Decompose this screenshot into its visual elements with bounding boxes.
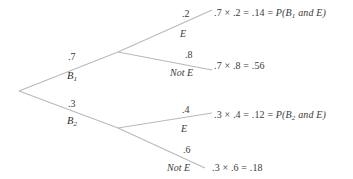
node-label-b2: B2 bbox=[67, 116, 77, 127]
calculation-b2-not-e: .3 × .6 = .18 bbox=[212, 163, 263, 173]
calculation-b2-e-subscript: 2 bbox=[292, 114, 296, 122]
calculation-b1-e: .7 × .2 = .14 = P(B1 and E) bbox=[214, 8, 326, 18]
node-label-b1-subscript: 1 bbox=[73, 75, 77, 83]
branch-line-b2-e bbox=[118, 113, 212, 128]
node-label-b2-subscript: 2 bbox=[73, 120, 77, 128]
probability-label-b1-e: .2 bbox=[182, 9, 190, 19]
event-label-b1-not-e: Not E bbox=[170, 68, 193, 78]
branch-line-b1-note bbox=[118, 52, 212, 70]
probability-label-b2-not-e: .6 bbox=[183, 145, 191, 155]
calculation-b1-e-subscript: 1 bbox=[292, 12, 296, 20]
branch-line-b1-e bbox=[118, 10, 212, 52]
calculation-b2-e-lead: .3 × .4 = .12 = bbox=[214, 109, 276, 120]
calculation-b2-e-pfun: P(B bbox=[276, 109, 292, 120]
calculation-b1-e-lead: .7 × .2 = .14 = bbox=[214, 7, 276, 18]
event-label-b2-not-e: Not E bbox=[167, 163, 190, 173]
event-label-b2-e: E bbox=[181, 124, 187, 134]
calculation-b1-e-tail: and E) bbox=[295, 7, 326, 18]
calculation-b1-e-pfun: P(B bbox=[276, 7, 292, 18]
calculation-b1-not-e: .7 × .8 = .56 bbox=[214, 61, 265, 71]
probability-label-b2-e: .4 bbox=[182, 105, 190, 115]
probability-label-b2: .3 bbox=[68, 99, 76, 109]
branch-line-b2-note bbox=[118, 128, 205, 168]
calculation-b2-e-tail: and E) bbox=[295, 109, 326, 120]
node-label-b1: B1 bbox=[67, 71, 77, 82]
calculation-b2-e: .3 × .4 = .12 = P(B2 and E) bbox=[214, 110, 326, 120]
probability-label-b1-not-e: .8 bbox=[185, 50, 193, 60]
probability-label-b1: .7 bbox=[68, 52, 76, 62]
tree-branch-lines bbox=[0, 0, 353, 179]
event-label-b1-e: E bbox=[180, 29, 186, 39]
probability-tree-diagram: .7 B1 .3 B2 .2 E .7 × .2 = .14 = P(B1 an… bbox=[0, 0, 353, 179]
